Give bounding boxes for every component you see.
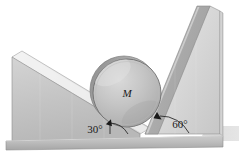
mass-label: M: [121, 87, 132, 99]
right-angle-label: 60°: [172, 118, 187, 130]
left-angle-label: 30°: [87, 123, 102, 135]
wedge-cylinder-figure: M 30° 60°: [0, 0, 239, 153]
figure-root: M 30° 60°: [0, 0, 239, 153]
